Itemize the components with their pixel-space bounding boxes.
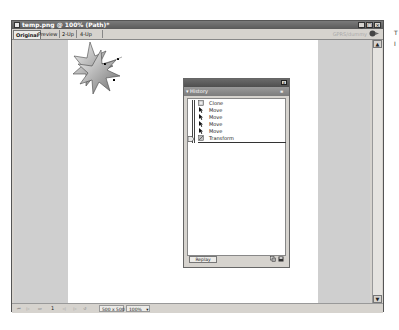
history-item-label: Move — [209, 107, 222, 114]
history-item-label: Move — [209, 128, 222, 135]
window-title: temp.png @ 100% (Path)* — [22, 21, 109, 29]
collapse-arrow-icon: ▾ — [186, 88, 189, 94]
chevron-down-icon: ▾ — [146, 307, 148, 312]
document-icon — [14, 22, 20, 28]
panel-tab-bar: ▾ History ≡ — [184, 87, 289, 96]
gprs-label: GPRS/dummy — [333, 30, 367, 38]
last-frame-button[interactable]: ⏭ — [37, 306, 43, 311]
play-button[interactable]: ▷ — [25, 306, 31, 311]
star-shapes[interactable] — [68, 40, 148, 120]
panel-menu-icon[interactable]: ≡ — [280, 89, 286, 94]
status-bar: ⏮ ▷ ⏭ 1 ◁ ▷ ↺ 500 x 500 100% ▾ — [12, 303, 383, 313]
history-panel: x ▾ History ≡ Clone Move Move Move Move — [183, 78, 290, 268]
panel-close-button[interactable]: x — [281, 80, 287, 85]
copy-steps-icon[interactable] — [270, 256, 276, 262]
zoom-dropdown[interactable]: 100% ▾ — [126, 305, 150, 312]
frame-number: 1 — [51, 305, 54, 312]
arrow-pointer-icon — [198, 107, 204, 113]
history-item[interactable]: Move — [198, 121, 286, 128]
save-steps-icon[interactable] — [278, 256, 284, 262]
zoom-value: 100% — [129, 307, 142, 312]
arrow-pointer-icon — [198, 128, 204, 134]
tab-4up[interactable]: 4-Up — [78, 30, 103, 38]
history-tab-label: History — [190, 88, 208, 94]
history-item[interactable]: Transform — [198, 135, 286, 143]
history-item[interactable]: Move — [198, 128, 286, 135]
vertical-scrollbar[interactable]: ▲ ▼ — [372, 40, 382, 303]
first-frame-button[interactable]: ⏮ — [16, 306, 22, 311]
history-item-label: Clone — [209, 100, 223, 107]
title-bar[interactable]: temp.png @ 100% (Path)* _ □ × — [12, 21, 383, 29]
transform-icon — [198, 135, 204, 141]
side-mark: T — [394, 29, 398, 36]
preview-gear-icon[interactable] — [369, 30, 380, 37]
image-size-display: 500 x 500 — [99, 305, 124, 312]
panel-footer: Replay — [187, 255, 286, 264]
loop-button[interactable]: ↺ — [82, 306, 88, 311]
tab-preview[interactable]: Preview — [36, 30, 60, 38]
history-list[interactable]: Clone Move Move Move Move Transform — [187, 98, 286, 256]
history-item-label: Transform — [209, 135, 234, 142]
arrow-pointer-icon — [198, 121, 204, 127]
history-tab[interactable]: ▾ History — [186, 87, 208, 96]
close-button[interactable]: × — [374, 22, 381, 28]
minimize-button[interactable]: _ — [358, 22, 365, 28]
scroll-up-button[interactable]: ▲ — [373, 40, 382, 48]
prev-frame-button[interactable]: ◁ — [61, 306, 67, 311]
side-mark: I — [394, 40, 396, 47]
history-item-label: Move — [209, 121, 222, 128]
tab-2up[interactable]: 2-Up — [60, 30, 77, 38]
arrow-pointer-icon — [198, 114, 204, 120]
history-item-label: Move — [209, 114, 222, 121]
history-item[interactable]: Move — [198, 114, 286, 121]
scroll-down-button[interactable]: ▼ — [373, 295, 382, 303]
maximize-button[interactable]: □ — [366, 22, 373, 28]
next-frame-button[interactable]: ▷ — [72, 306, 78, 311]
panel-title-bar[interactable]: x — [184, 79, 289, 87]
history-item[interactable]: Move — [198, 107, 286, 114]
view-tabs: Original Preview 2-Up 4-Up GPRS/dummy — [12, 29, 383, 40]
replay-button[interactable]: Replay — [189, 256, 217, 263]
history-item[interactable]: Clone — [198, 100, 286, 107]
clone-icon — [198, 100, 204, 106]
history-slider-handle[interactable] — [188, 136, 194, 142]
